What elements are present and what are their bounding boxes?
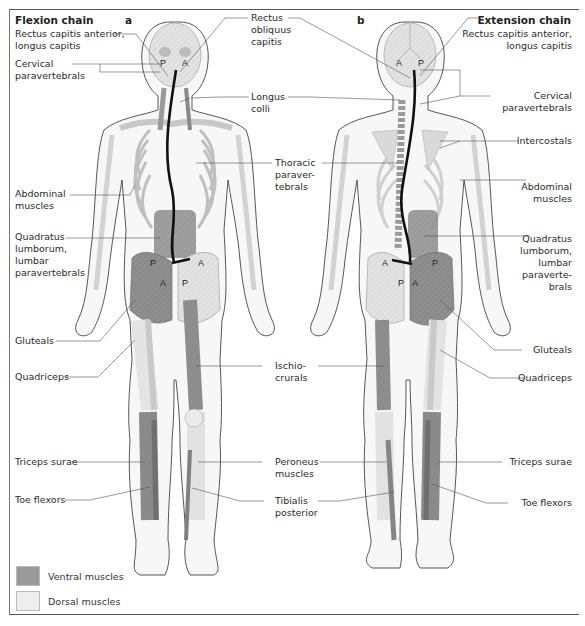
label-thoracic-paravertebrals: Thoracic paraver- tebrals (275, 157, 315, 193)
figure-b-back-view: A P A P P A (311, 22, 511, 568)
label-right-triceps-surae: Triceps surae (509, 456, 572, 468)
svg-text:P: P (432, 258, 438, 268)
anatomy-illustration: P A P A A P (0, 0, 585, 626)
label-right-cervical-paravertebrals: Cervical paravertebrals (502, 90, 572, 114)
label-right-gluteals: Gluteals (533, 344, 572, 356)
label-rectus-obliquus-capitis: Rectus obliquus capitis (251, 12, 291, 48)
label-left-gluteals: Gluteals (15, 335, 54, 347)
svg-text:A: A (396, 58, 402, 68)
svg-text:A: A (412, 278, 418, 288)
legend-item-dorsal: Dorsal muscles (16, 591, 124, 611)
label-tibialis-posterior: Tibialis posterior (275, 495, 318, 519)
label-right-toe-flexors: Toe flexors (521, 497, 572, 509)
label-right-quadriceps: Quadriceps (518, 372, 572, 384)
label-right-rectus-capitis-anterior: Rectus capitis anterior, longus capitis (462, 28, 572, 52)
legend: Ventral muscles Dorsal muscles (16, 566, 124, 616)
svg-text:P: P (398, 278, 404, 288)
label-right-intercostals: Intercostals (517, 135, 572, 147)
legend-label-ventral: Ventral muscles (48, 571, 124, 582)
label-right-quadratus-lumborum: Quadratus lumborum, lumbar paraverte- br… (520, 233, 572, 293)
label-left-cervical-paravertebrals: Cervical paravertebrals (15, 58, 85, 82)
legend-label-dorsal: Dorsal muscles (48, 596, 120, 607)
label-left-quadratus-lumborum: Quadratus lumborum, lumbar paravertebral… (15, 231, 85, 279)
label-peroneus-muscles: Peroneus muscles (275, 456, 319, 480)
label-left-quadriceps: Quadriceps (15, 371, 69, 383)
legend-item-ventral: Ventral muscles (16, 566, 124, 586)
svg-text:P: P (150, 258, 156, 268)
label-left-toe-flexors: Toe flexors (15, 494, 66, 506)
dorsal-swatch (16, 591, 40, 611)
label-right-abdominal-muscles: Abdominal muscles (521, 181, 572, 205)
svg-text:A: A (382, 258, 388, 268)
ventral-swatch (16, 566, 40, 586)
svg-text:P: P (182, 278, 188, 288)
label-left-rectus-capitis-anterior: Rectus capitis anterior, longus capitis (15, 28, 125, 52)
label-longus-colli: Longus colli (251, 91, 285, 115)
svg-text:A: A (160, 278, 166, 288)
svg-text:P: P (418, 58, 424, 68)
label-left-triceps-surae: Triceps surae (15, 456, 78, 468)
figure-a-front-view: P A P A A P (76, 22, 275, 575)
svg-text:A: A (198, 258, 204, 268)
label-left-abdominal-muscles: Abdominal muscles (15, 188, 66, 212)
label-ischiocrurals: Ischio- crurals (275, 360, 307, 384)
